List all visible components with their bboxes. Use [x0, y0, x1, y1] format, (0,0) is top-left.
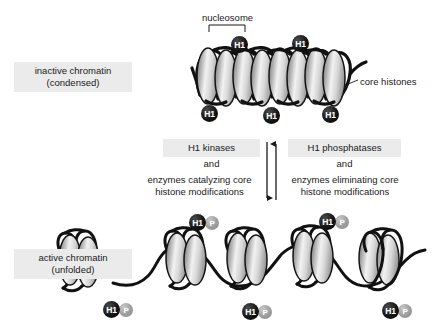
h1-badge-active-bottom-2: H1 — [242, 303, 259, 320]
h1-kinases-heading: H1 kinases — [163, 139, 260, 157]
p-badge-active-top-1: P — [205, 216, 219, 230]
h1-badge-condensed-top-1: H1 — [231, 36, 248, 53]
h1-phosphatases-description-line1: enzymes eliminating core — [283, 174, 407, 186]
h1-kinases-conjunction: and — [163, 158, 260, 170]
p-badge-active-bottom-3: P — [398, 304, 412, 318]
p-badge-active-top-2: P — [335, 215, 349, 229]
p-badge-active-bottom-1: P — [119, 303, 133, 317]
core-histones-label: core histones — [360, 76, 417, 88]
h1-badge-active-bottom-1: H1 — [103, 301, 120, 318]
h1-kinases-description-line1: enzymes catalyzing core — [139, 174, 260, 186]
active-chromatin-label-line2: (unfolded) — [21, 264, 125, 276]
h1-badge-active-top-1: H1 — [189, 214, 206, 231]
h1-phosphatases-heading: H1 phosphatases — [288, 139, 401, 157]
h1-badge-condensed-bottom-3: H1 — [322, 106, 339, 123]
h1-kinases-description-line2: histone modifications — [139, 186, 260, 198]
inactive-chromatin-label-line1: inactive chromatin — [21, 65, 125, 77]
h1-badge-active-top-2: H1 — [319, 213, 336, 230]
reaction-arrows — [267, 142, 276, 200]
nucleosome-bracket — [209, 25, 245, 32]
p-badge-active-bottom-2: P — [258, 305, 272, 319]
h1-badge-active-bottom-3: H1 — [382, 302, 399, 319]
h1-phosphatases-conjunction: and — [288, 158, 401, 170]
active-chromatin-label-line1: active chromatin — [21, 252, 125, 264]
active-chromatin-label: active chromatin (unfolded) — [14, 249, 132, 279]
inactive-chromatin-label-line2: (condensed) — [21, 77, 125, 89]
chromatin-diagram: inactive chromatin (condensed) active ch… — [0, 0, 445, 333]
h1-badge-condensed-bottom-1: H1 — [201, 105, 218, 122]
h1-badge-condensed-bottom-2: H1 — [263, 107, 280, 124]
h1-badge-condensed-top-2: H1 — [292, 35, 309, 52]
condensed-chromatin-structure — [192, 48, 366, 106]
h1-phosphatases-description-line2: histone modifications — [283, 186, 407, 198]
inactive-chromatin-label: inactive chromatin (condensed) — [14, 62, 132, 92]
nucleosome-label: nucleosome — [196, 12, 259, 24]
